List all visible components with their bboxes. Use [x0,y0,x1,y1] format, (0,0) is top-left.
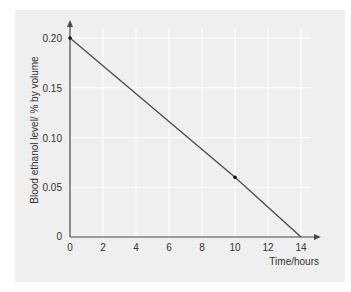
x-tick-label: 2 [100,242,106,253]
x-tick-label: 14 [295,242,307,253]
y-tick-label: 0.10 [43,133,63,144]
x-axis-label: Time/hours [269,256,319,267]
y-tick-label: 0 [56,231,62,242]
line-chart: 0246810121400.050.100.150.20Time/hoursBl… [0,0,351,292]
x-tick-label: 4 [133,242,139,253]
y-tick-label: 0.20 [43,33,63,44]
x-tick-label: 10 [229,242,241,253]
x-tick-label: 6 [166,242,172,253]
y-tick-label: 0.15 [43,83,63,94]
y-axis-arrow-icon [67,20,73,27]
x-tick-label: 8 [199,242,205,253]
x-axis-arrow-icon [314,234,321,240]
y-axis-label: Blood ethanol level/ % by volume [29,56,40,204]
x-tick-label: 12 [262,242,274,253]
data-point [233,176,237,180]
x-tick-label: 0 [67,242,73,253]
data-point [68,36,72,40]
y-tick-label: 0.05 [43,182,63,193]
